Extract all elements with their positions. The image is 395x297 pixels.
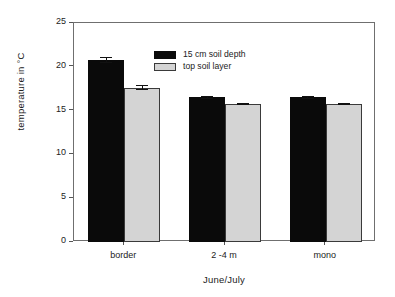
- legend-swatch: [154, 51, 176, 59]
- error-bar-cap-bottom: [302, 98, 314, 99]
- y-tick-label: 25: [56, 16, 66, 26]
- legend-swatch: [154, 63, 176, 71]
- error-bar: [225, 103, 261, 105]
- x-tick-label: border: [73, 250, 173, 260]
- error-bar-cap-bottom: [338, 104, 350, 105]
- chart-figure: temperature in °C June/July 0510152025 b…: [0, 0, 395, 297]
- legend-entry: 15 cm soil depth: [154, 50, 246, 59]
- error-bar-cap-bottom: [237, 104, 249, 105]
- error-bar: [326, 103, 362, 105]
- x-axis-title: June/July: [73, 274, 375, 285]
- error-bar-cap-bottom: [136, 89, 148, 90]
- error-bar-cap-top: [136, 85, 148, 86]
- y-tick-label: 0: [61, 235, 66, 245]
- error-bar: [290, 96, 326, 98]
- error-bar: [88, 57, 124, 63]
- bar: [225, 104, 261, 242]
- plot-area: 15 cm soil depthtop soil layer: [73, 22, 375, 241]
- error-bar-cap-top: [100, 57, 112, 58]
- error-bar: [124, 85, 160, 90]
- error-bar-cap-bottom: [100, 62, 112, 63]
- y-tick-label: 5: [61, 191, 66, 201]
- error-bar: [189, 96, 225, 99]
- y-tick-label: 15: [56, 104, 66, 114]
- bar: [124, 88, 160, 242]
- bar: [88, 60, 124, 242]
- y-tick-label: 20: [56, 60, 66, 70]
- x-tick-label: mono: [275, 250, 375, 260]
- bar: [290, 97, 326, 242]
- y-axis-title: temperature in °C: [15, 32, 26, 152]
- bar: [326, 104, 362, 242]
- bar: [189, 97, 225, 242]
- y-tick-label: 10: [56, 147, 66, 157]
- chart-legend: 15 cm soil depthtop soil layer: [154, 50, 246, 74]
- error-bar-cap-bottom: [201, 98, 213, 99]
- legend-label: 15 cm soil depth: [183, 50, 246, 59]
- x-tick-label: 2 -4 m: [174, 250, 274, 260]
- legend-entry: top soil layer: [154, 62, 246, 71]
- legend-label: top soil layer: [183, 62, 231, 71]
